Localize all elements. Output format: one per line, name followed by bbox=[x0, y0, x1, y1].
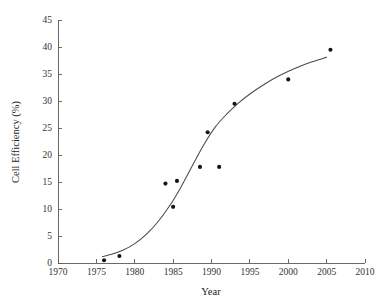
scatter-chart: 197019751980198519901995200020052010 051… bbox=[0, 0, 387, 307]
y-tick-label-30: 30 bbox=[43, 96, 53, 106]
y-tick-label-0: 0 bbox=[47, 258, 52, 268]
x-tick-label-2005: 2005 bbox=[317, 267, 336, 277]
data-point-1988.5 bbox=[198, 165, 202, 169]
x-tick-label-1970: 1970 bbox=[49, 267, 68, 277]
x-tick-label-2000: 2000 bbox=[279, 267, 298, 277]
x-tick-label-1995: 1995 bbox=[240, 267, 259, 277]
data-points-group bbox=[102, 48, 333, 263]
chart-container: 197019751980198519901995200020052010 051… bbox=[0, 0, 387, 307]
y-tick-label-20: 20 bbox=[43, 150, 53, 160]
y-tick-label-5: 5 bbox=[47, 231, 52, 241]
data-point-1989.5 bbox=[206, 130, 210, 134]
y-tick-label-25: 25 bbox=[43, 123, 53, 133]
trend-curve bbox=[103, 57, 327, 256]
data-point-1991 bbox=[217, 165, 221, 169]
y-tick-group bbox=[58, 20, 62, 263]
trend-curve-group bbox=[103, 57, 327, 256]
data-point-1978 bbox=[117, 254, 121, 258]
x-tick-label-1975: 1975 bbox=[87, 267, 106, 277]
data-point-1993 bbox=[232, 102, 236, 106]
data-point-2000 bbox=[286, 77, 290, 81]
x-tick-label-1980: 1980 bbox=[125, 267, 144, 277]
y-tick-label-15: 15 bbox=[43, 177, 53, 187]
axes-group bbox=[58, 20, 365, 263]
x-axis-title: Year bbox=[201, 286, 221, 297]
y-tick-label-group: 051015202530354045 bbox=[43, 15, 53, 268]
x-tick-label-group: 197019751980198519901995200020052010 bbox=[49, 267, 375, 277]
data-point-1985.5 bbox=[175, 179, 179, 183]
y-tick-label-10: 10 bbox=[43, 204, 53, 214]
x-tick-label-1985: 1985 bbox=[164, 267, 183, 277]
x-tick-label-2010: 2010 bbox=[356, 267, 375, 277]
y-axis-title: Cell Efficiency (%) bbox=[10, 100, 22, 183]
data-point-1976 bbox=[102, 258, 106, 262]
data-point-1984 bbox=[163, 182, 167, 186]
data-point-1985 bbox=[171, 205, 175, 209]
y-tick-label-45: 45 bbox=[43, 15, 53, 25]
data-point-2005.5 bbox=[328, 48, 332, 52]
y-tick-label-40: 40 bbox=[43, 42, 53, 52]
x-tick-label-1990: 1990 bbox=[202, 267, 221, 277]
y-tick-label-35: 35 bbox=[43, 69, 53, 79]
